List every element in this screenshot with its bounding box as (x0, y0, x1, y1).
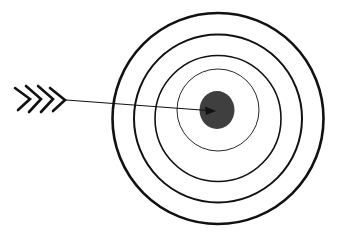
arrow-fletching (15, 86, 65, 112)
arrow-shaft (66, 100, 208, 111)
target-diagram (0, 0, 337, 237)
fletch-1 (15, 88, 30, 110)
diagram-canvas (0, 0, 337, 237)
